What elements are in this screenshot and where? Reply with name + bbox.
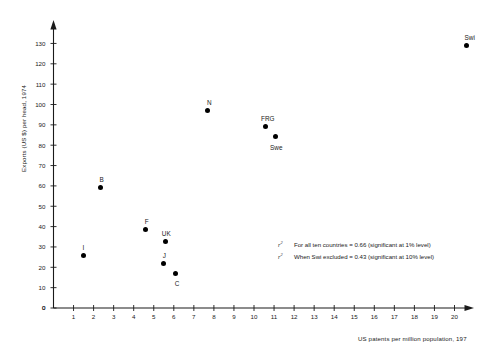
data-point-frg [263, 124, 268, 129]
data-point-swi [464, 43, 469, 48]
data-point-label-swe: Swe [270, 144, 282, 151]
y-tick-label: 10 [24, 284, 46, 291]
x-tick-label: 18 [407, 313, 421, 320]
y-tick-label: 60 [24, 182, 46, 189]
y-tick-label: 40 [24, 223, 46, 230]
x-tick-label: 16 [367, 313, 381, 320]
r-squared-symbol: r2 [278, 238, 294, 250]
r-squared-symbol: r2 [278, 250, 294, 262]
data-point-j [161, 261, 166, 266]
y-tick-label: 20 [24, 264, 46, 271]
data-point-label-i: I [83, 244, 85, 251]
x-tick-label: 17 [387, 313, 401, 320]
data-point-label-swi: Swi [465, 34, 475, 41]
y-tick-label: 90 [24, 121, 46, 128]
annotation-row: r2When Swi excluded = 0.43 (significant … [278, 250, 434, 262]
x-tick-label: 12 [287, 313, 301, 320]
x-tick-label: 11 [267, 313, 281, 320]
data-point-label-c: C [175, 280, 180, 287]
chart-axes [0, 0, 480, 354]
annotation-text: When Swi excluded = 0.43 (significant at… [294, 252, 434, 261]
x-axis-label: US patents per million population, 197 [358, 335, 467, 342]
x-tick-label: 20 [448, 313, 462, 320]
y-tick-label: 70 [24, 162, 46, 169]
y-axis-arrowhead [50, 20, 56, 30]
y-tick-label: 110 [24, 81, 46, 88]
y-tick-label: 100 [24, 101, 46, 108]
x-tick-label: 5 [147, 313, 161, 320]
scatter-plot-figure: Exports (US $) per head, 1974 US patents… [0, 0, 480, 354]
x-tick-label: 19 [427, 313, 441, 320]
x-tick-label: 8 [207, 313, 221, 320]
y-tick-label: 80 [24, 142, 46, 149]
r-squared-annotation: r2For all ten countries = 0.66 (signific… [278, 238, 434, 262]
x-tick-label: 9 [227, 313, 241, 320]
data-point-label-uk: UK [162, 230, 171, 237]
x-tick-label: 3 [107, 313, 121, 320]
data-point-label-b: B [100, 176, 104, 183]
data-point-label-frg: FRG [261, 115, 275, 122]
y-tick-label: 120 [24, 60, 46, 67]
x-tick-label: 1 [67, 313, 81, 320]
annotation-row: r2For all ten countries = 0.66 (signific… [278, 238, 434, 250]
origin-label: 0 [24, 304, 46, 311]
x-tick-label: 15 [347, 313, 361, 320]
annotation-text: For all ten countries = 0.66 (significan… [294, 240, 431, 249]
x-tick-label: 2 [87, 313, 101, 320]
data-point-label-j: J [163, 252, 166, 259]
x-tick-label: 6 [167, 313, 181, 320]
y-tick-label: 50 [24, 203, 46, 210]
data-point-label-n: N [207, 99, 212, 106]
data-point-swe [273, 134, 278, 139]
x-axis-arrowhead [465, 305, 475, 311]
data-point-i [81, 253, 86, 258]
y-tick-label: 130 [24, 40, 46, 47]
x-tick-label: 13 [307, 313, 321, 320]
y-tick-label: 30 [24, 243, 46, 250]
x-tick-label: 4 [127, 313, 141, 320]
x-tick-label: 10 [247, 313, 261, 320]
x-tick-label: 14 [327, 313, 341, 320]
data-point-label-f: F [145, 218, 149, 225]
x-tick-label: 7 [187, 313, 201, 320]
